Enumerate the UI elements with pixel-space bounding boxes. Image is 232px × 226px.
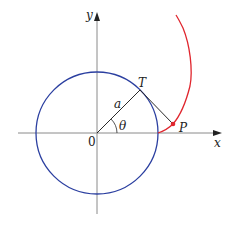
- origin-label: 0: [88, 135, 96, 149]
- radius-label: a: [114, 97, 121, 111]
- y-axis-label: y: [85, 8, 93, 22]
- involute-diagram: y x 0 T P a θ: [0, 0, 232, 226]
- point-T-label: T: [138, 76, 147, 90]
- angle-arc: [111, 119, 117, 133]
- y-axis-arrow-icon: [94, 12, 100, 21]
- x-axis-label: x: [214, 136, 221, 150]
- point-P-marker: [171, 122, 176, 127]
- axes: [18, 12, 222, 214]
- involute-curve: [158, 15, 191, 133]
- point-P-label: P: [178, 121, 188, 135]
- angle-label: θ: [119, 119, 127, 133]
